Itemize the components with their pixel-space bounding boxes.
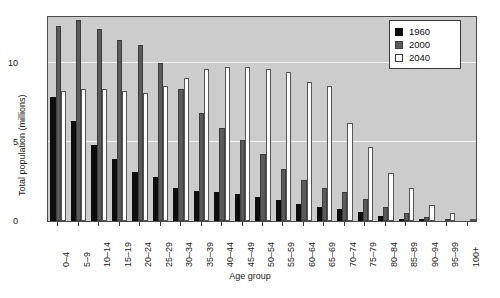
bar-group: [191, 17, 211, 221]
bar-group: [232, 17, 252, 221]
legend-swatch-icon: [395, 54, 403, 62]
x-tick-mark: [221, 222, 222, 226]
x-tick-label: 100+: [471, 247, 481, 267]
bar-2040-100+: [470, 219, 475, 221]
bar-group: [212, 17, 232, 221]
legend-item-2040: 2040: [395, 51, 455, 64]
legend-label: 2040: [409, 53, 430, 63]
bar-2040-0_4: [61, 91, 66, 221]
legend-label: 2000: [409, 40, 430, 50]
y-tick-label: 5: [0, 138, 18, 147]
bar-2040-85_89: [409, 188, 414, 221]
x-tick-label: 40–44: [225, 242, 235, 267]
bar-2040-65_69: [327, 86, 332, 221]
bar-group: [335, 17, 355, 221]
x-tick-mark: [446, 222, 447, 226]
x-tick-label: 55–59: [286, 242, 296, 267]
legend-item-2000: 2000: [395, 38, 455, 51]
x-tick-label: 25–29: [164, 242, 174, 267]
chart-figure: 0510 Total population (millions) 0–45–91…: [0, 0, 500, 298]
bar-2040-10_14: [102, 89, 107, 221]
bar-group: [294, 17, 314, 221]
bar-group: [355, 17, 375, 221]
bar-2040-40_44: [225, 67, 230, 221]
bar-2040-30_34: [184, 78, 189, 221]
legend-swatch-icon: [395, 28, 403, 36]
legend-label: 1960: [409, 27, 430, 37]
x-tick-label: 0–4: [61, 252, 71, 267]
x-tick-mark: [160, 222, 161, 226]
x-tick-mark: [78, 222, 79, 226]
x-tick-label: 60–64: [307, 242, 317, 267]
y-tick-label: 0: [0, 217, 18, 226]
y-tick-label: 10: [0, 59, 18, 68]
bar-group: [314, 17, 334, 221]
x-tick-mark: [201, 222, 202, 226]
bar-2040-55_59: [286, 72, 291, 221]
legend-item-1960: 1960: [395, 25, 455, 38]
bar-2040-95_99: [450, 213, 455, 221]
bar-group: [109, 17, 129, 221]
bar-2040-80_84: [388, 173, 393, 221]
x-tick-mark: [242, 222, 243, 226]
x-tick-label: 30–34: [184, 242, 194, 267]
x-tick-label: 95–99: [450, 242, 460, 267]
x-tick-mark: [282, 222, 283, 226]
x-tick-mark: [344, 222, 345, 226]
x-tick-label: 15–19: [123, 242, 133, 267]
legend: 196020002040: [389, 20, 461, 69]
x-tick-label: 50–54: [266, 242, 276, 267]
x-axis-label: Age group: [0, 271, 500, 281]
x-tick-label: 90–94: [430, 242, 440, 267]
bar-2040-15_19: [122, 91, 127, 221]
x-tick-mark: [303, 222, 304, 226]
x-tick-label: 80–84: [389, 242, 399, 267]
x-tick-label: 35–39: [205, 242, 215, 267]
x-tick-label: 45–49: [246, 242, 256, 267]
x-tick-mark: [385, 222, 386, 226]
x-tick-mark: [426, 222, 427, 226]
bar-group: [253, 17, 273, 221]
bar-2040-5_9: [81, 89, 86, 221]
bar-2040-60_64: [307, 82, 312, 221]
x-tick-mark: [98, 222, 99, 226]
bar-group: [150, 17, 170, 221]
y-axis-label: Total population (millions): [17, 94, 27, 196]
bar-group: [68, 17, 88, 221]
bar-2040-25_29: [163, 86, 168, 221]
bar-2040-75_79: [368, 147, 373, 221]
bar-2040-90_94: [429, 205, 434, 221]
x-tick-label: 75–79: [368, 242, 378, 267]
x-tick-mark: [139, 222, 140, 226]
x-tick-mark: [405, 222, 406, 226]
x-tick-mark: [323, 222, 324, 226]
x-tick-label: 20–24: [143, 242, 153, 267]
bar-2040-70_74: [347, 123, 352, 221]
x-tick-mark: [262, 222, 263, 226]
bar-group: [89, 17, 109, 221]
x-tick-mark: [119, 222, 120, 226]
bar-2040-45_49: [245, 67, 250, 221]
bar-2040-50_54: [266, 69, 271, 221]
bar-group: [48, 17, 68, 221]
x-tick-label: 10–14: [102, 242, 112, 267]
legend-swatch-icon: [395, 41, 403, 49]
x-tick-mark: [57, 222, 58, 226]
x-tick-label: 65–69: [327, 242, 337, 267]
bar-2040-20_24: [143, 93, 148, 221]
x-tick-mark: [467, 222, 468, 226]
bar-group: [273, 17, 293, 221]
x-tick-label: 70–74: [348, 242, 358, 267]
x-tick-label: 5–9: [82, 252, 92, 267]
x-tick-label: 85–89: [409, 242, 419, 267]
x-tick-mark: [180, 222, 181, 226]
bar-group: [171, 17, 191, 221]
x-tick-mark: [364, 222, 365, 226]
bar-group: [130, 17, 150, 221]
bar-2040-35_39: [204, 69, 209, 221]
